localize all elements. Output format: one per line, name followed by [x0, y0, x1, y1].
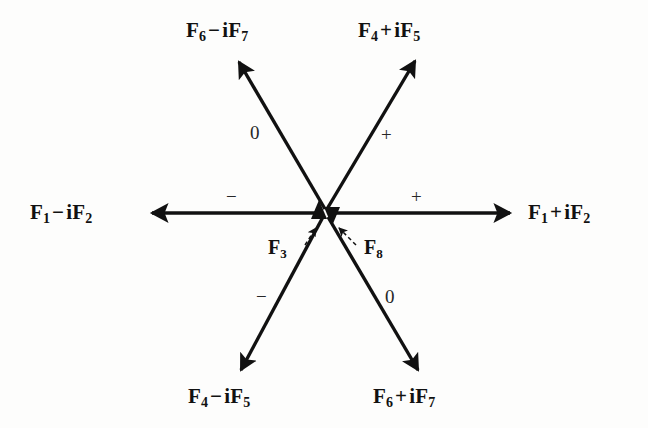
label-f1-plus-if2-base: F: [528, 200, 541, 224]
label-f4-plus-if5: F4+iF5: [358, 18, 420, 45]
label-f4-plus-if5-imaginary: iF: [394, 18, 413, 42]
sign-label-lower-left: −: [256, 286, 267, 308]
label-f4-plus-if5-sub2: 5: [413, 29, 420, 44]
sign-label-left: −: [226, 186, 237, 208]
label-f1-plus-if2-imaginary: iF: [564, 200, 583, 224]
label-f6-plus-if7-sub1: 6: [386, 395, 393, 410]
label-f6-plus-if7: F6+iF7: [373, 384, 435, 411]
label-f3-sub: 3: [280, 246, 287, 261]
sign-label-upper-right: +: [381, 124, 392, 146]
sign-label-upper-left: 0: [250, 122, 260, 144]
label-f1-minus-if2-sub1: 1: [43, 211, 50, 226]
label-f4-plus-if5-sub1: 4: [371, 29, 378, 44]
label-f6-minus-if7: F6−iF7: [186, 18, 248, 45]
label-f4-minus-if5-sub2: 5: [243, 395, 250, 410]
arrow-f4-plus-if5: [327, 61, 415, 209]
label-f4-minus-if5-base: F: [188, 384, 201, 408]
label-f6-minus-if7-sub1: 6: [199, 29, 206, 44]
center-arrowhead-down: [324, 207, 340, 226]
label-f6-minus-if7-sub2: 7: [241, 29, 248, 44]
label-f6-plus-if7-imaginary: iF: [409, 384, 428, 408]
label-f6-plus-if7-base: F: [373, 384, 386, 408]
label-f6-plus-if7-sub2: 7: [428, 395, 435, 410]
label-f6-minus-if7-imaginary: iF: [222, 18, 241, 42]
label-f6-minus-if7-base: F: [186, 18, 199, 42]
sign-label-right: +: [411, 186, 422, 208]
label-f8-sub: 8: [376, 246, 383, 261]
label-f1-minus-if2-imaginary: iF: [66, 200, 85, 224]
label-f4-minus-if5-sub1: 4: [201, 395, 208, 410]
label-f4-plus-if5-operator: +: [378, 18, 394, 42]
label-f1-plus-if2-sub2: 2: [583, 211, 590, 226]
center-arrowhead-up: [311, 200, 327, 219]
label-f1-minus-if2-base: F: [30, 200, 43, 224]
center-arrowhead-group: [311, 200, 340, 226]
label-f8-base: F: [364, 236, 376, 258]
label-f4-minus-if5-operator: −: [208, 384, 224, 408]
label-f4-minus-if5-imaginary: iF: [224, 384, 243, 408]
label-f1-plus-if2: F1+iF2: [528, 200, 590, 227]
figure-canvas: F1−iF2 F1+iF2 F4+iF5 F6−iF7 F4−iF5 F6+iF…: [0, 0, 648, 428]
sign-label-lower-right: 0: [385, 286, 395, 308]
label-f3: F3: [268, 236, 287, 262]
label-f4-plus-if5-base: F: [358, 18, 371, 42]
label-f8: F8: [364, 236, 383, 262]
label-f1-minus-if2: F1−iF2: [30, 200, 92, 227]
label-f1-minus-if2-operator: −: [50, 200, 66, 224]
label-f1-minus-if2-sub2: 2: [85, 211, 92, 226]
label-f4-minus-if5: F4−iF5: [188, 384, 250, 411]
label-f6-plus-if7-operator: +: [393, 384, 409, 408]
label-f3-base: F: [268, 236, 280, 258]
label-f1-plus-if2-sub1: 1: [541, 211, 548, 226]
label-f1-plus-if2-operator: +: [548, 200, 564, 224]
label-f6-minus-if7-operator: −: [206, 18, 222, 42]
